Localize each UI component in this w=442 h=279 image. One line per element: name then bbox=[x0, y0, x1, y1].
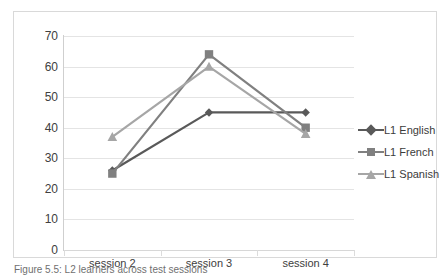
legend-label: L1 Spanish bbox=[384, 168, 439, 180]
legend-marker-diamond-icon bbox=[358, 124, 384, 136]
legend-item-l1-english[interactable]: L1 English bbox=[358, 119, 442, 141]
y-axis-tick-label: 30 bbox=[26, 152, 58, 164]
y-axis-tick-label: 10 bbox=[26, 213, 58, 225]
data-point-marker bbox=[108, 169, 116, 177]
figure-container: 010203040506070 session 2session 3sessio… bbox=[0, 0, 442, 279]
chart-frame: 010203040506070 session 2session 3sessio… bbox=[13, 11, 437, 258]
data-point-marker bbox=[204, 62, 214, 71]
series-layer bbox=[64, 36, 354, 250]
gridline bbox=[64, 250, 354, 251]
chart-legend: L1 English L1 French L1 Spanish bbox=[358, 119, 442, 185]
plot-area bbox=[64, 36, 354, 250]
legend-label: L1 French bbox=[384, 146, 434, 158]
data-point-marker bbox=[301, 108, 309, 116]
y-axis-tick-label: 40 bbox=[26, 122, 58, 134]
category-separator bbox=[354, 250, 355, 256]
series-line bbox=[112, 67, 305, 137]
y-axis-tick-label: 70 bbox=[26, 30, 58, 42]
legend-marker-triangle-icon bbox=[358, 168, 384, 180]
legend-marker-square-icon bbox=[358, 146, 384, 158]
figure-caption: Figure 5.5: L2 learners across test sess… bbox=[14, 264, 434, 276]
legend-label: L1 English bbox=[384, 124, 435, 136]
legend-item-l1-spanish[interactable]: L1 Spanish bbox=[358, 163, 442, 185]
category-separator bbox=[64, 250, 65, 256]
series-line bbox=[112, 112, 305, 170]
y-axis-tick-label: 0 bbox=[26, 244, 58, 256]
category-separator bbox=[161, 250, 162, 256]
category-separator bbox=[257, 250, 258, 256]
y-axis-tick-label: 20 bbox=[26, 183, 58, 195]
data-point-marker bbox=[205, 50, 213, 58]
legend-item-l1-french[interactable]: L1 French bbox=[358, 141, 442, 163]
y-axis-tick-label: 60 bbox=[26, 61, 58, 73]
y-axis-tick-labels: 010203040506070 bbox=[24, 12, 58, 259]
y-axis-tick-label: 50 bbox=[26, 91, 58, 103]
